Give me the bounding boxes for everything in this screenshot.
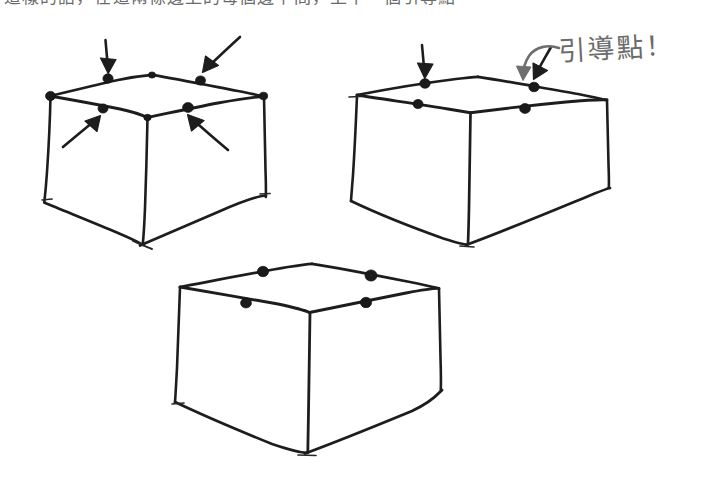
box-3-guide-dot-front-right bbox=[360, 297, 371, 307]
box-2-bottom-edge-right bbox=[466, 188, 610, 245]
box-3-vertical-edge-left bbox=[175, 288, 180, 403]
box-1-arrow-down-to-back-left-midpoint bbox=[101, 40, 117, 74]
box-1-top-edge-front-right bbox=[147, 96, 264, 117]
box-1-bottom-edge-right bbox=[140, 196, 266, 246]
box-1-right-corner-tick bbox=[260, 194, 270, 195]
box-2-top-edge-back-right bbox=[478, 77, 607, 100]
box-2-guide-dot-front-right bbox=[520, 104, 531, 114]
box-1-guide-dot-front-right bbox=[183, 103, 194, 113]
box-1-guide-dot-left-vertex bbox=[46, 91, 56, 100]
box-2-arrow-down-left-to-back-right-midpoint bbox=[533, 47, 551, 80]
box-2-arrow-down-to-back-left-midpoint bbox=[418, 45, 434, 79]
box-1-guide-dot-back-left bbox=[103, 74, 113, 83]
box-1-top-edge-back-left bbox=[50, 75, 152, 96]
box-2-bottom-corner-tick bbox=[460, 246, 474, 247]
box-3-bottom-edge-left bbox=[175, 402, 308, 453]
box-2-left-corner-tick bbox=[349, 97, 360, 98]
box-3-top-edge-back-left bbox=[180, 264, 312, 287]
box-1-arrow-up-right-to-front-left-midpoint bbox=[63, 116, 101, 148]
box-1-guide-dot-back-right bbox=[196, 76, 206, 85]
box-2-vertical-edge-front bbox=[468, 113, 471, 243]
box-2-bottom-edge-left bbox=[351, 201, 468, 245]
box-3-top-edge-front-right bbox=[310, 288, 440, 312]
box-2-guide-dot-back-right bbox=[529, 82, 539, 92]
box-1-guide-dot-right-vertex bbox=[259, 92, 267, 100]
box-1-top-edge-back-right bbox=[152, 75, 263, 96]
box-1-vertical-edge-left bbox=[44, 97, 50, 203]
box-3 bbox=[172, 264, 442, 456]
box-1 bbox=[42, 37, 270, 249]
box-3-guide-dot-back-right bbox=[365, 270, 377, 281]
box-3-left-corner-tick bbox=[172, 403, 184, 404]
box-2-guide-dot-back-left bbox=[420, 79, 430, 89]
box-1-arrow-down-left-to-back-right-midpoint bbox=[203, 37, 241, 73]
box-1-vertical-edge-right bbox=[264, 97, 266, 198]
box-1-vertical-edge-front bbox=[143, 118, 148, 245]
box-3-vertical-edge-front bbox=[308, 313, 310, 453]
box-2-top-edge-front-right bbox=[471, 100, 608, 113]
box-2-vertical-edge-right bbox=[607, 100, 609, 188]
box-2-vertical-edge-left bbox=[351, 96, 357, 202]
box-1-guide-dot-front-vertex bbox=[144, 114, 151, 120]
box-3-bottom-corner-tick bbox=[298, 455, 316, 456]
guide-point-annotation: 引導點！ bbox=[557, 24, 675, 69]
box-2 bbox=[349, 45, 610, 247]
box-3-guide-dot-front-left bbox=[241, 298, 252, 308]
sketch-canvas bbox=[0, 0, 706, 497]
box-2-top-edge-back-left bbox=[357, 77, 478, 95]
box-3-bottom-edge-right bbox=[305, 390, 442, 454]
box-3-guide-dot-back-left bbox=[257, 266, 268, 276]
box-1-guide-dot-front-left bbox=[98, 104, 108, 113]
box-3-vertical-edge-right bbox=[439, 289, 441, 391]
box-1-left-corner-tick bbox=[42, 199, 52, 200]
box-1-guide-dot-back-vertex bbox=[148, 72, 155, 78]
box-1-bottom-edge-left bbox=[44, 203, 143, 245]
box-2-guide-dot-front-left bbox=[413, 99, 423, 108]
box-1-arrow-up-left-to-front-right-midpoint bbox=[188, 115, 229, 151]
